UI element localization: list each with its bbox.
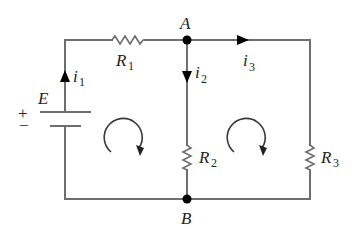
resistor-r2-label: R [198,148,210,167]
resistor-r3-subscript: 3 [333,156,339,170]
resistor-r1-subscript: 1 [128,59,134,73]
minus-sign: − [19,116,29,135]
battery-icon [40,112,91,126]
node-b-dot [183,195,192,204]
node-a-label: A [179,14,191,33]
loop-left-clockwise-icon [104,118,144,156]
arrow-down-icon [182,71,192,83]
circuit-diagram: E + − i 1 R 1 A i 2 i 3 R 2 R 3 B [0,0,362,236]
resistor-r1-icon [112,36,145,44]
wires [65,40,310,199]
node-a-dot [183,36,192,45]
arrow-right-icon [237,35,249,45]
resistor-r2-icon [183,145,191,170]
arrow-up-icon [60,70,70,82]
current-i2-subscript: 2 [201,72,207,86]
source-label: E [37,89,49,108]
node-b-label: B [181,209,192,228]
resistor-r1-label: R [115,51,127,70]
resistor-r3-label: R [320,148,332,167]
current-i1-label: i [73,67,78,86]
current-i3-subscript: 3 [249,60,255,74]
current-i2-label: i [195,63,200,82]
resistor-r3-icon [306,145,314,170]
loop-right-clockwise-icon [227,118,267,156]
current-i3-label: i [243,51,248,70]
resistor-r2-subscript: 2 [211,156,217,170]
current-i1-subscript: 1 [79,75,85,89]
